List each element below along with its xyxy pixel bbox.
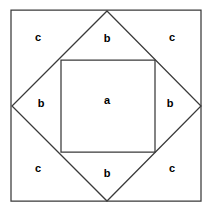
- label-b-bottom: b: [104, 168, 111, 179]
- label-c-bottom-right: c: [169, 163, 175, 174]
- geometry-figure: c b c b a b c b c: [0, 0, 212, 212]
- label-b-top: b: [104, 33, 111, 44]
- label-c-bottom-left: c: [35, 163, 41, 174]
- inner-square: [61, 60, 155, 152]
- label-b-left: b: [38, 98, 45, 109]
- label-a-center: a: [104, 95, 110, 106]
- label-c-top-left: c: [35, 32, 41, 43]
- label-c-top-right: c: [169, 32, 175, 43]
- label-b-right: b: [167, 98, 174, 109]
